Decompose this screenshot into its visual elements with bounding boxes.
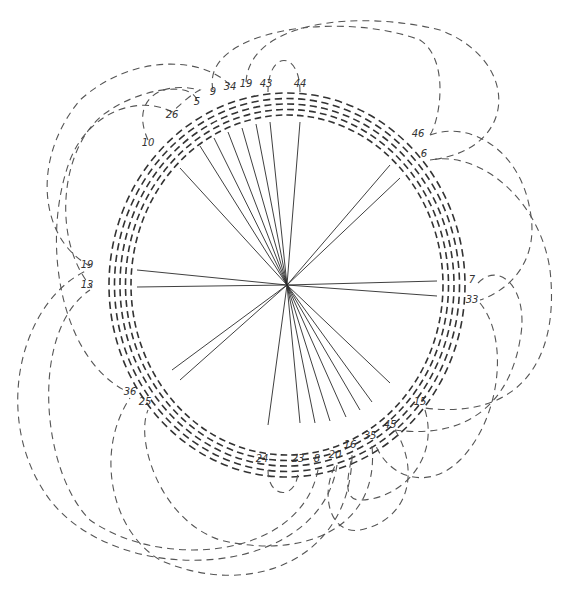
node-labels: 4443193495261046673315453516208232425361…: [81, 78, 479, 464]
node-label-13: 13: [81, 279, 94, 290]
node-label-19b: 19: [81, 259, 94, 270]
ray-to-25: [180, 285, 287, 380]
loop-19-6: [246, 21, 499, 160]
loop-6-15: [425, 159, 551, 410]
loop-45-20: [328, 430, 408, 530]
ray-to-16: [287, 285, 346, 417]
node-label-19: 19: [240, 78, 253, 89]
node-label-9: 9: [210, 86, 216, 97]
ray-to-8: [287, 285, 315, 423]
node-label-36: 36: [124, 386, 137, 397]
ray-to-19b: [137, 270, 287, 285]
loop-20-19b: [18, 270, 337, 560]
ray-to-44: [287, 122, 300, 285]
node-label-23: 23: [292, 453, 305, 464]
node-label-8: 8: [314, 453, 320, 464]
loop-46-33: [430, 131, 532, 300]
ray-to-43: [270, 122, 287, 285]
ray-to-5: [214, 138, 287, 285]
circular-connection-diagram: 4443193495261046673315453516208232425361…: [0, 0, 568, 594]
node-label-34: 34: [224, 81, 237, 92]
ray-to-34: [242, 128, 287, 285]
ray-to-45: [287, 285, 372, 402]
ray-to-6: [287, 178, 400, 285]
loop-26-36: [56, 105, 172, 392]
ray-to-36: [172, 285, 287, 370]
ray-to-9: [228, 132, 287, 285]
node-label-5: 5: [194, 96, 200, 107]
diagram-canvas: 4443193495261046673315453516208232425361…: [0, 0, 568, 594]
node-label-44: 44: [294, 78, 307, 89]
loop-16-36: [111, 398, 352, 575]
loop-34-19b: [47, 64, 230, 266]
ray-to-13: [137, 285, 287, 287]
node-label-35: 35: [364, 430, 377, 441]
center-rays: [137, 122, 437, 425]
node-label-33: 33: [466, 294, 479, 305]
ray-to-35: [287, 285, 360, 410]
ray-to-46: [287, 165, 390, 285]
ray-to-7: [287, 281, 437, 285]
loop-24-23: [268, 470, 298, 493]
ray-to-10: [180, 168, 287, 285]
node-label-15: 15: [414, 396, 427, 407]
node-label-43: 43: [260, 78, 273, 89]
node-label-26: 26: [166, 109, 179, 120]
node-label-45: 45: [384, 419, 397, 430]
ray-to-33: [287, 285, 437, 296]
node-label-20: 20: [329, 449, 342, 460]
node-label-46: 46: [412, 128, 425, 139]
ray-to-24: [268, 285, 287, 425]
node-label-6: 6: [421, 148, 427, 159]
node-label-25: 25: [139, 396, 152, 407]
node-label-24: 24: [256, 453, 269, 464]
node-label-10: 10: [142, 137, 155, 148]
node-label-7: 7: [469, 274, 476, 285]
node-label-16: 16: [344, 439, 357, 450]
